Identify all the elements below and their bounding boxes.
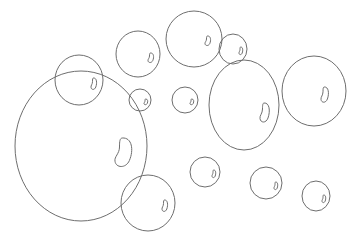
bubble-outline: [15, 71, 147, 221]
bubble-large: [15, 71, 147, 221]
bubble-highlight-icon: [322, 195, 326, 203]
bubble-small-center: [172, 87, 198, 113]
bubble-highlight-icon: [321, 87, 328, 102]
bubble-tall: [209, 60, 279, 150]
bubble-outline: [121, 175, 175, 231]
bubble-small-left: [129, 89, 151, 111]
bubble-bottom-right: [302, 181, 330, 211]
bubble-highlight-icon: [205, 36, 211, 46]
bubble-highlight-icon: [144, 99, 148, 105]
bubble-bottom-mid: [250, 167, 282, 199]
bubble-highlight-icon: [212, 170, 216, 178]
bubbles-canvas: [0, 0, 351, 235]
bubble-top-center: [166, 11, 222, 67]
bubble-top-mid: [116, 31, 160, 77]
bubble-highlight-icon: [260, 103, 269, 122]
bubbles-drawing: [0, 0, 351, 235]
bubble-outline: [166, 11, 222, 67]
bubble-bottom-small: [190, 157, 220, 187]
bubble-highlight-icon: [239, 47, 243, 55]
bubble-highlight-icon: [162, 200, 168, 211]
bubble-highlight-icon: [91, 78, 97, 89]
bubble-outline: [282, 56, 346, 126]
bubble-highlight-icon: [148, 53, 154, 63]
bubble-highlight-icon: [115, 138, 132, 167]
bubble-right: [282, 56, 346, 126]
bubble-top-small: [219, 34, 247, 64]
bubble-outline: [172, 87, 198, 113]
bubble-highlight-icon: [274, 182, 278, 190]
bubble-bottom-left: [121, 175, 175, 231]
bubble-top-left: [55, 55, 103, 105]
bubble-highlight-icon: [190, 99, 194, 105]
